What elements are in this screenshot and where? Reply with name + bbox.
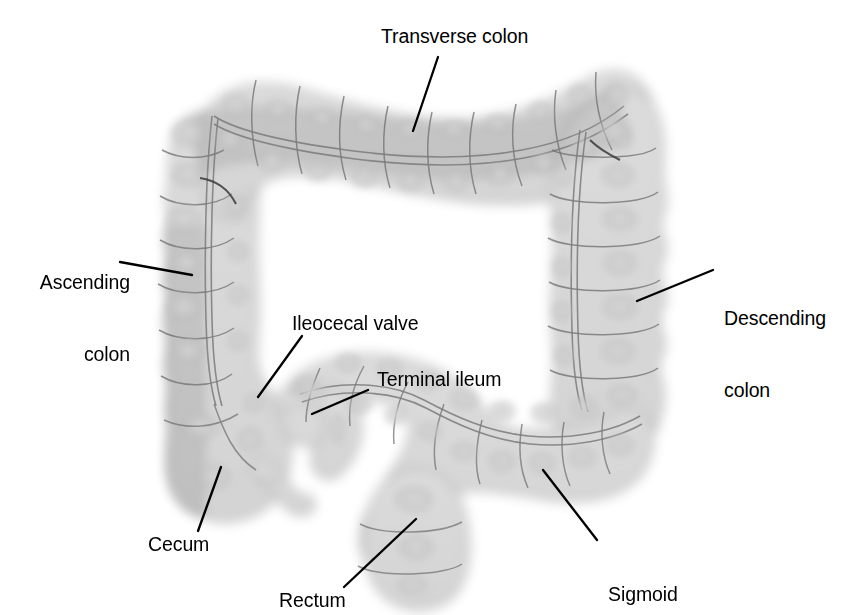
label-descending-colon: Descending colon <box>724 258 854 450</box>
label-descending-colon-line2: colon <box>724 378 854 402</box>
label-ileocecal-valve: Ileocecal valve <box>292 311 418 335</box>
label-ascending-colon: Ascending colon <box>10 222 130 414</box>
label-descending-colon-line1: Descending <box>724 306 854 330</box>
label-ascending-colon-line2: colon <box>10 342 130 366</box>
appendix-highlight <box>255 475 281 489</box>
anatomy-figure: Transverse colon Ascending colon Descend… <box>0 0 860 615</box>
label-transverse-colon: Transverse colon <box>381 24 528 48</box>
label-rectum: Rectum <box>279 588 346 612</box>
label-terminal-ileum: Terminal ileum <box>377 367 501 391</box>
label-ascending-colon-line1: Ascending <box>10 270 130 294</box>
label-sigmoid-colon-line1: Sigmoid <box>608 582 728 606</box>
label-cecum: Cecum <box>148 532 209 556</box>
label-sigmoid-colon: Sigmoid colon <box>608 534 728 615</box>
